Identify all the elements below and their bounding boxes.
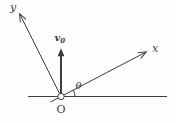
y-axis-label: y — [9, 1, 17, 14]
angle-label: θ — [76, 80, 82, 91]
x-axis-line — [51, 52, 146, 102]
y-axis-line — [20, 15, 61, 97]
x-axis-label: x — [152, 42, 159, 55]
diagram-svg: y x v0 θ O — [0, 0, 176, 123]
velocity-label-subscript: 0 — [60, 36, 65, 45]
physics-diagram: y x v0 θ O — [0, 0, 176, 123]
origin-marker — [58, 93, 64, 99]
velocity-label: v0 — [55, 32, 66, 45]
origin-label: O — [57, 103, 66, 116]
